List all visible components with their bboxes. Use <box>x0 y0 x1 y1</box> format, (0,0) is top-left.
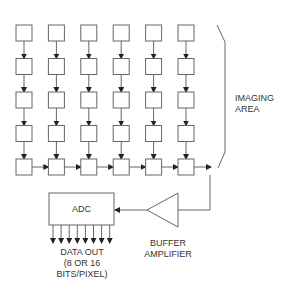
pixel-cell <box>16 92 32 108</box>
pixel-cell <box>81 25 97 41</box>
pixel-cell <box>178 59 194 75</box>
pixel-cell <box>16 159 32 175</box>
pixel-cell <box>146 25 162 41</box>
pixel-cell <box>16 25 32 41</box>
pixel-cell <box>16 59 32 75</box>
pixel-cell <box>146 159 162 175</box>
pixel-cell <box>113 126 129 142</box>
adc-label: ADC <box>49 204 114 215</box>
pixel-cell <box>48 59 64 75</box>
pixel-cell <box>16 126 32 142</box>
pixel-cell <box>48 126 64 142</box>
buffer-amplifier <box>147 193 178 227</box>
pixel-cell <box>146 126 162 142</box>
pixel-cell <box>178 25 194 41</box>
buffer-amplifier-label: BUFFER AMPLIFIER <box>138 238 198 260</box>
pixel-cell <box>113 92 129 108</box>
shift-output-line <box>178 175 210 210</box>
pixel-cell <box>178 126 194 142</box>
pixel-cell <box>113 59 129 75</box>
pixel-cell <box>48 92 64 108</box>
pixel-cell <box>81 59 97 75</box>
pixel-cell <box>178 159 194 175</box>
pixel-cell <box>146 59 162 75</box>
pixel-cell <box>113 25 129 41</box>
data-out-arrows <box>53 225 110 243</box>
pixel-cell <box>81 92 97 108</box>
imaging-area-label: IMAGING AREA <box>235 93 274 115</box>
pixel-cell <box>48 159 64 175</box>
pixel-cell <box>81 126 97 142</box>
pixel-cell <box>178 92 194 108</box>
data-out-label: DATA OUT (8 OR 16 BITS/PIXEL) <box>46 247 118 280</box>
pixel-grid <box>16 25 211 175</box>
pixel-cell <box>113 159 129 175</box>
pixel-cell <box>81 159 97 175</box>
imaging-area-bracket <box>217 25 225 168</box>
pixel-cell <box>48 25 64 41</box>
pixel-cell <box>146 92 162 108</box>
